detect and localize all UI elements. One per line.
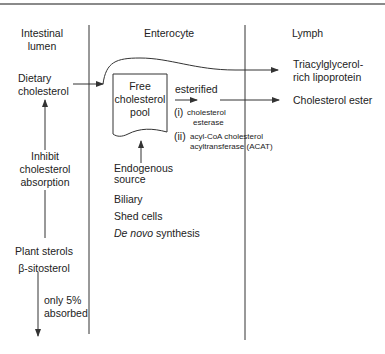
cholesterol-ester-label: Cholesterol ester xyxy=(293,94,372,107)
dietary-line2: cholesterol xyxy=(18,85,69,98)
dietary-cholesterol-label: Dietary cholesterol xyxy=(18,72,69,98)
pool-line2: cholesterol xyxy=(113,93,167,106)
absorbed-label: only 5% absorbed xyxy=(44,294,88,320)
header-lymph: Lymph xyxy=(292,27,323,40)
enzyme-1: (i) xyxy=(174,106,183,119)
pool-line3: pool xyxy=(113,106,167,119)
enzyme-1-num: (i) xyxy=(174,106,183,118)
enzyme-1-text: cholesterol esterase xyxy=(187,108,226,128)
plant-line1: Plant sterols xyxy=(12,243,76,260)
header-enterocyte: Enterocyte xyxy=(144,27,194,40)
endogenous-items: Biliary Shed cells De novo synthesis xyxy=(114,191,200,242)
enzyme-2-text: acyl-CoA cholesterol acyltransferase (AC… xyxy=(190,132,273,152)
pool-label: Free cholesterol pool xyxy=(113,80,167,119)
enzyme-2: (ii) xyxy=(174,130,186,143)
tg-line2: rich lipoprotein xyxy=(293,71,363,84)
header-lumen-line2: lumen xyxy=(14,40,70,53)
plant-line2: β-sitosterol xyxy=(12,260,76,277)
absorbed-line1: only 5% xyxy=(44,294,88,307)
plant-sterols-label: Plant sterols β-sitosterol xyxy=(12,243,76,277)
dietary-line1: Dietary xyxy=(18,72,69,85)
enzyme-1-line1: cholesterol xyxy=(187,108,226,118)
endogenous-source-label: Endogenous source xyxy=(114,163,173,185)
inhibit-line3: absorption xyxy=(16,176,74,189)
enzyme-2-num: (ii) xyxy=(174,130,186,142)
de-novo-rest: synthesis xyxy=(153,227,200,239)
endogenous-line2: source xyxy=(114,174,173,185)
enzyme-1-line2: esterase xyxy=(187,118,226,128)
endogenous-item-de-novo: De novo synthesis xyxy=(114,225,200,242)
inhibit-line1: Inhibit xyxy=(16,150,74,163)
tg-line1: Triacylglycerol- xyxy=(293,58,363,71)
endogenous-item-biliary: Biliary xyxy=(114,191,200,208)
header-lumen: Intestinal lumen xyxy=(14,27,70,53)
enzyme-2-line1: acyl-CoA cholesterol xyxy=(190,132,273,142)
tg-lipoprotein-label: Triacylglycerol- rich lipoprotein xyxy=(293,58,363,84)
inhibit-label: Inhibit cholesterol absorption xyxy=(16,150,74,189)
absorbed-line2: absorbed xyxy=(44,307,88,320)
pool-line1: Free xyxy=(113,80,167,93)
header-lumen-line1: Intestinal xyxy=(14,27,70,40)
inhibit-line2: cholesterol xyxy=(16,163,74,176)
de-novo-italic: De novo xyxy=(114,227,153,239)
endogenous-item-shed-cells: Shed cells xyxy=(114,208,200,225)
esterified-label: esterified xyxy=(175,83,218,96)
enzyme-2-line2: acyltransferase (ACAT) xyxy=(190,142,273,152)
